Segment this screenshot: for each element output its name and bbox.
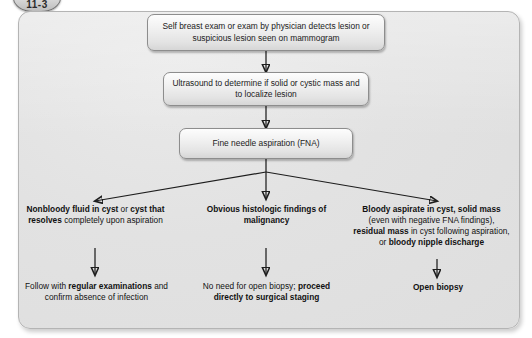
node-initial-detection: Self breast exam or exam by physician de… [147,14,385,51]
node-label: Ultrasound to determine if solid or cyst… [172,78,360,100]
branch-right-outcome: Open biopsy [368,282,508,293]
text-run-bold: Obvious histologic findings of malignanc… [207,204,326,225]
figure-canvas: 11-3 Self breast exam or exam by physici… [0,0,532,338]
node-fna: Fine needle aspiration (FNA) [179,128,353,159]
text-run-bold: Open biopsy [413,282,463,292]
branch-right-finding: Bloody aspirate in cyst, solid mass (eve… [352,204,511,248]
node-label: Self breast exam or exam by physician de… [156,21,376,43]
text-run: (even with negative FNA findings), [369,215,495,225]
node-label: Fine needle aspiration (FNA) [212,138,319,149]
text-run: or [118,204,130,214]
text-run: completely upon aspiration [62,215,163,225]
branch-center-finding: Obvious histologic findings of malignanc… [198,204,335,226]
text-run-bold: Bloody aspirate in cyst, solid mass [362,204,500,214]
text-run: Follow with [25,281,68,291]
text-run: No need for open biopsy; [203,281,298,291]
branch-center-outcome: No need for open biopsy; proceed directl… [194,281,339,303]
branch-left-outcome: Follow with regular examinations and con… [18,281,175,303]
connector-fan-right [266,172,437,201]
text-run-bold: Nonbloody fluid in cyst [27,204,119,214]
text-run-bold: bloody nipple discharge [389,237,484,247]
text-run-bold: residual mass [353,226,408,236]
text-run-bold: regular examinations [68,281,151,291]
node-ultrasound: Ultrasound to determine if solid or cyst… [163,72,369,106]
connector-fan-left [95,172,266,201]
branch-left-finding: Nonbloody fluid in cyst or cyst that res… [17,204,174,226]
